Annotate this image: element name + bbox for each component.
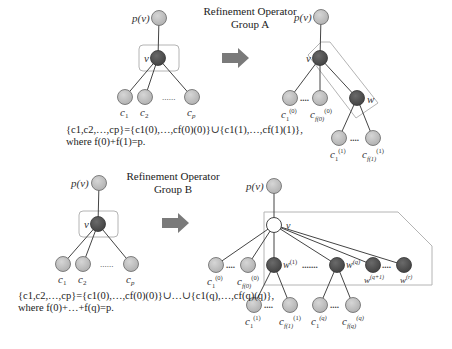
parent-node bbox=[92, 176, 107, 191]
child-node-c1 bbox=[56, 257, 71, 272]
child-node-c1-1 bbox=[332, 131, 347, 146]
child-node-c1-0 bbox=[209, 258, 224, 273]
parent-node bbox=[267, 179, 282, 194]
child-node-cp bbox=[124, 257, 139, 272]
w-node bbox=[350, 91, 365, 106]
label-pv: p(v) bbox=[70, 177, 89, 190]
wr-node bbox=[397, 258, 412, 273]
label-w1: w(1) bbox=[283, 258, 297, 270]
label-cf1-1: cf(1)(1) bbox=[362, 147, 384, 163]
label-c1-1: c1(1) bbox=[330, 147, 346, 162]
group-b-title-line2: Group B bbox=[154, 183, 192, 195]
label-pv: p(v) bbox=[245, 180, 264, 193]
ellipsis: .... bbox=[382, 260, 391, 270]
group-b-title-line1: Refinement Operator bbox=[126, 170, 219, 182]
label-v: v bbox=[144, 52, 149, 64]
group-a-title-line1: Refinement Operator bbox=[203, 5, 296, 17]
child-node-cf0-0 bbox=[313, 91, 328, 106]
w1-node bbox=[267, 258, 282, 273]
child-node-c2 bbox=[76, 257, 91, 272]
group-b-before-tree: p(v) v ...... c1 c2 cp bbox=[56, 176, 139, 288]
parent-node bbox=[314, 10, 329, 25]
child-node-cf0-0 bbox=[241, 258, 256, 273]
label-w: w bbox=[367, 93, 375, 105]
ellipsis: .... bbox=[330, 300, 339, 310]
ellipsis: ...... bbox=[100, 259, 114, 269]
arrow-right-icon bbox=[222, 48, 249, 68]
group-a-formula-line2: where f(0)+f(1)=p. bbox=[66, 136, 303, 148]
ellipsis: ...... bbox=[162, 92, 176, 102]
label-c1: c1 bbox=[58, 273, 67, 287]
child-node-c1 bbox=[118, 90, 133, 105]
label-pv: p(v) bbox=[131, 12, 150, 25]
child-node-cfq-q bbox=[346, 298, 361, 313]
wq1-node bbox=[366, 258, 381, 273]
child-node-cp bbox=[185, 90, 200, 105]
child-node-cf1-1 bbox=[283, 298, 298, 313]
label-c2: c2 bbox=[140, 106, 149, 120]
child-node-cf1-1 bbox=[366, 131, 381, 146]
v-node bbox=[91, 217, 106, 232]
group-a-before-tree: p(v) v ...... c1 c2 cp bbox=[118, 11, 200, 121]
parent-node bbox=[152, 11, 167, 26]
ellipsis: ....... bbox=[302, 260, 318, 270]
label-c1-1: c1(1) bbox=[245, 314, 261, 329]
group-a-formula: {c1,c2,…,cp}={c1(0),…,cf(0)(0)}∪{c1(1),…… bbox=[66, 124, 303, 148]
label-wq: w(q) bbox=[346, 258, 360, 270]
label-v: v bbox=[84, 218, 89, 230]
v-node bbox=[267, 218, 282, 233]
label-pv: p(v) bbox=[293, 11, 312, 24]
group-b-formula-line2: where f(0)+…+f(q)=p. bbox=[18, 302, 274, 314]
label-cf0-0: cf(0)(0) bbox=[310, 107, 332, 123]
ellipsis: .... bbox=[226, 260, 235, 270]
label-cfq-q: cf(q)(q) bbox=[342, 314, 364, 330]
label-cf0-0: cf(0)(0) bbox=[237, 274, 259, 290]
label-v: v bbox=[306, 52, 311, 64]
ellipsis: .... bbox=[300, 93, 309, 103]
child-node-c1-q bbox=[313, 298, 328, 313]
group-a-title-line2: Group A bbox=[231, 18, 269, 30]
label-c2: c2 bbox=[78, 273, 87, 287]
label-cp: cp bbox=[187, 106, 196, 120]
label-v: v bbox=[286, 220, 291, 231]
child-node-c2 bbox=[138, 90, 153, 105]
label-cf1-1: cf(1)(1) bbox=[279, 314, 301, 330]
label-wr: w(r) bbox=[400, 274, 412, 285]
arrow-right-icon bbox=[162, 213, 189, 233]
v-node bbox=[313, 51, 328, 66]
label-wq1: w(q+1) bbox=[364, 274, 384, 285]
label-c1-0: c1(0) bbox=[207, 274, 223, 289]
child-node-c1-0 bbox=[283, 91, 298, 106]
v-node bbox=[151, 51, 166, 66]
wq-node bbox=[330, 258, 345, 273]
label-cp: cp bbox=[126, 273, 135, 287]
group-b-formula-line1: {c1,c2,…,cp}={c1(0),…,cf(0)(0)}∪…∪{c1(q)… bbox=[18, 290, 274, 302]
ellipsis: .... bbox=[350, 133, 359, 143]
group-a-formula-line1: {c1,c2,…,cp}={c1(0),…,cf(0)(0)}∪{c1(1),…… bbox=[66, 124, 303, 136]
label-c1: c1 bbox=[120, 106, 129, 120]
label-c1-q: c1(q) bbox=[311, 314, 327, 329]
label-c1-0: c1(0) bbox=[281, 107, 297, 122]
group-b-formula: {c1,c2,…,cp}={c1(0),…,cf(0)(0)}∪…∪{c1(q)… bbox=[18, 290, 274, 314]
